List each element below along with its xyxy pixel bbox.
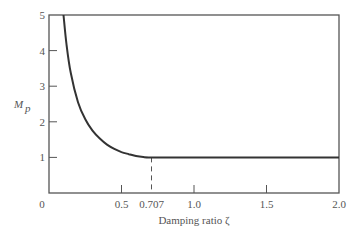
resonant-peak-chart: 1234500.50.7071.01.52.0 M p Damping rati… xyxy=(0,0,358,231)
y-tick-label: 4 xyxy=(40,45,46,57)
x-tick-label: 1.0 xyxy=(187,198,201,210)
plot-frame xyxy=(49,15,339,193)
y-tick-label: 1 xyxy=(40,151,46,163)
mp-curve xyxy=(64,15,340,157)
chart-canvas: 1234500.50.7071.01.52.0 M p Damping rati… xyxy=(0,0,358,231)
x-tick-label: 1.5 xyxy=(260,198,274,210)
axis-ticks xyxy=(49,51,267,193)
plot-border xyxy=(49,15,339,193)
x-tick-label: 0.707 xyxy=(139,198,164,210)
y-tick-label: 3 xyxy=(40,80,46,92)
y-tick-label: 2 xyxy=(40,116,46,128)
y-axis-title: M xyxy=(13,98,24,110)
x-tick-label: 2.0 xyxy=(332,198,346,210)
y-tick-label: 5 xyxy=(40,9,46,21)
axis-tick-labels: 1234500.50.7071.01.52.0 xyxy=(39,9,346,210)
y-axis-title-subscript: p xyxy=(24,102,31,114)
x-tick-label: 0.5 xyxy=(115,198,129,210)
x-tick-label: 0 xyxy=(39,198,45,210)
x-axis-title: Damping ratio ζ xyxy=(158,214,230,227)
